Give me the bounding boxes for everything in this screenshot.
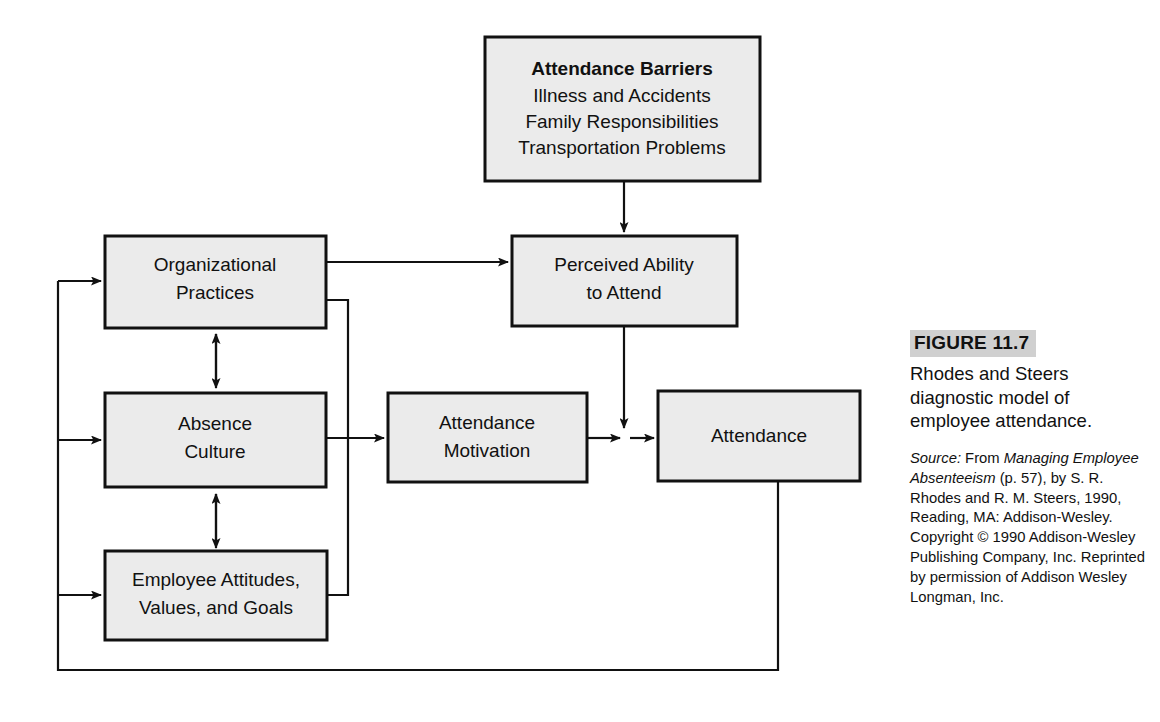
node-attendance-motivation[interactable]: Attendance Motivation <box>388 393 587 482</box>
node-organizational-practices[interactable]: Organizational Practices <box>105 236 326 328</box>
node-absence-culture-line-1: Absence <box>178 413 252 434</box>
node-attendance-motivation-line-2: Motivation <box>444 440 531 461</box>
node-absence-culture[interactable]: Absence Culture <box>105 393 326 487</box>
edge-org-practices-to-employee-attitudes <box>326 300 348 595</box>
node-employee-attitudes-line-1: Employee Attitudes, <box>132 569 300 590</box>
diagram-canvas: Attendance Barriers Illness and Accident… <box>0 0 880 722</box>
node-attendance-label: Attendance <box>711 425 807 446</box>
node-employee-attitudes[interactable]: Employee Attitudes, Values, and Goals <box>105 551 327 640</box>
figure-number-badge: FIGURE 11.7 <box>910 330 1036 357</box>
node-perceived-ability-to-attend[interactable]: Perceived Ability to Attend <box>512 236 737 326</box>
source-rest: (p. 57), by S. R. Rhodes and R. M. Steer… <box>910 470 1145 605</box>
source-label: Source: <box>910 450 961 466</box>
node-organizational-practices-line-2: Practices <box>176 282 254 303</box>
source-intro: From <box>961 450 1004 466</box>
node-employee-attitudes-line-2: Values, and Goals <box>139 597 293 618</box>
node-attendance-barriers-line-3: Transportation Problems <box>518 137 725 158</box>
figure-source-block: Source: From Managing Employee Absenteei… <box>910 449 1145 608</box>
figure-caption-text: Rhodes and Steers diagnostic model of em… <box>910 362 1145 433</box>
node-perceived-ability-line-2: to Attend <box>586 282 661 303</box>
node-perceived-ability-line-1: Perceived Ability <box>554 254 694 275</box>
node-organizational-practices-line-1: Organizational <box>154 254 277 275</box>
node-attendance-barriers-line-2: Family Responsibilities <box>525 111 718 132</box>
node-attendance[interactable]: Attendance <box>658 391 860 481</box>
node-attendance-barriers[interactable]: Attendance Barriers Illness and Accident… <box>485 37 760 181</box>
node-attendance-motivation-line-1: Attendance <box>439 412 535 433</box>
node-attendance-barriers-line-1: Illness and Accidents <box>533 85 710 106</box>
node-attendance-barriers-heading: Attendance Barriers <box>531 58 713 79</box>
figure-caption-panel: FIGURE 11.7 Rhodes and Steers diagnostic… <box>910 330 1145 608</box>
node-absence-culture-line-2: Culture <box>184 441 245 462</box>
